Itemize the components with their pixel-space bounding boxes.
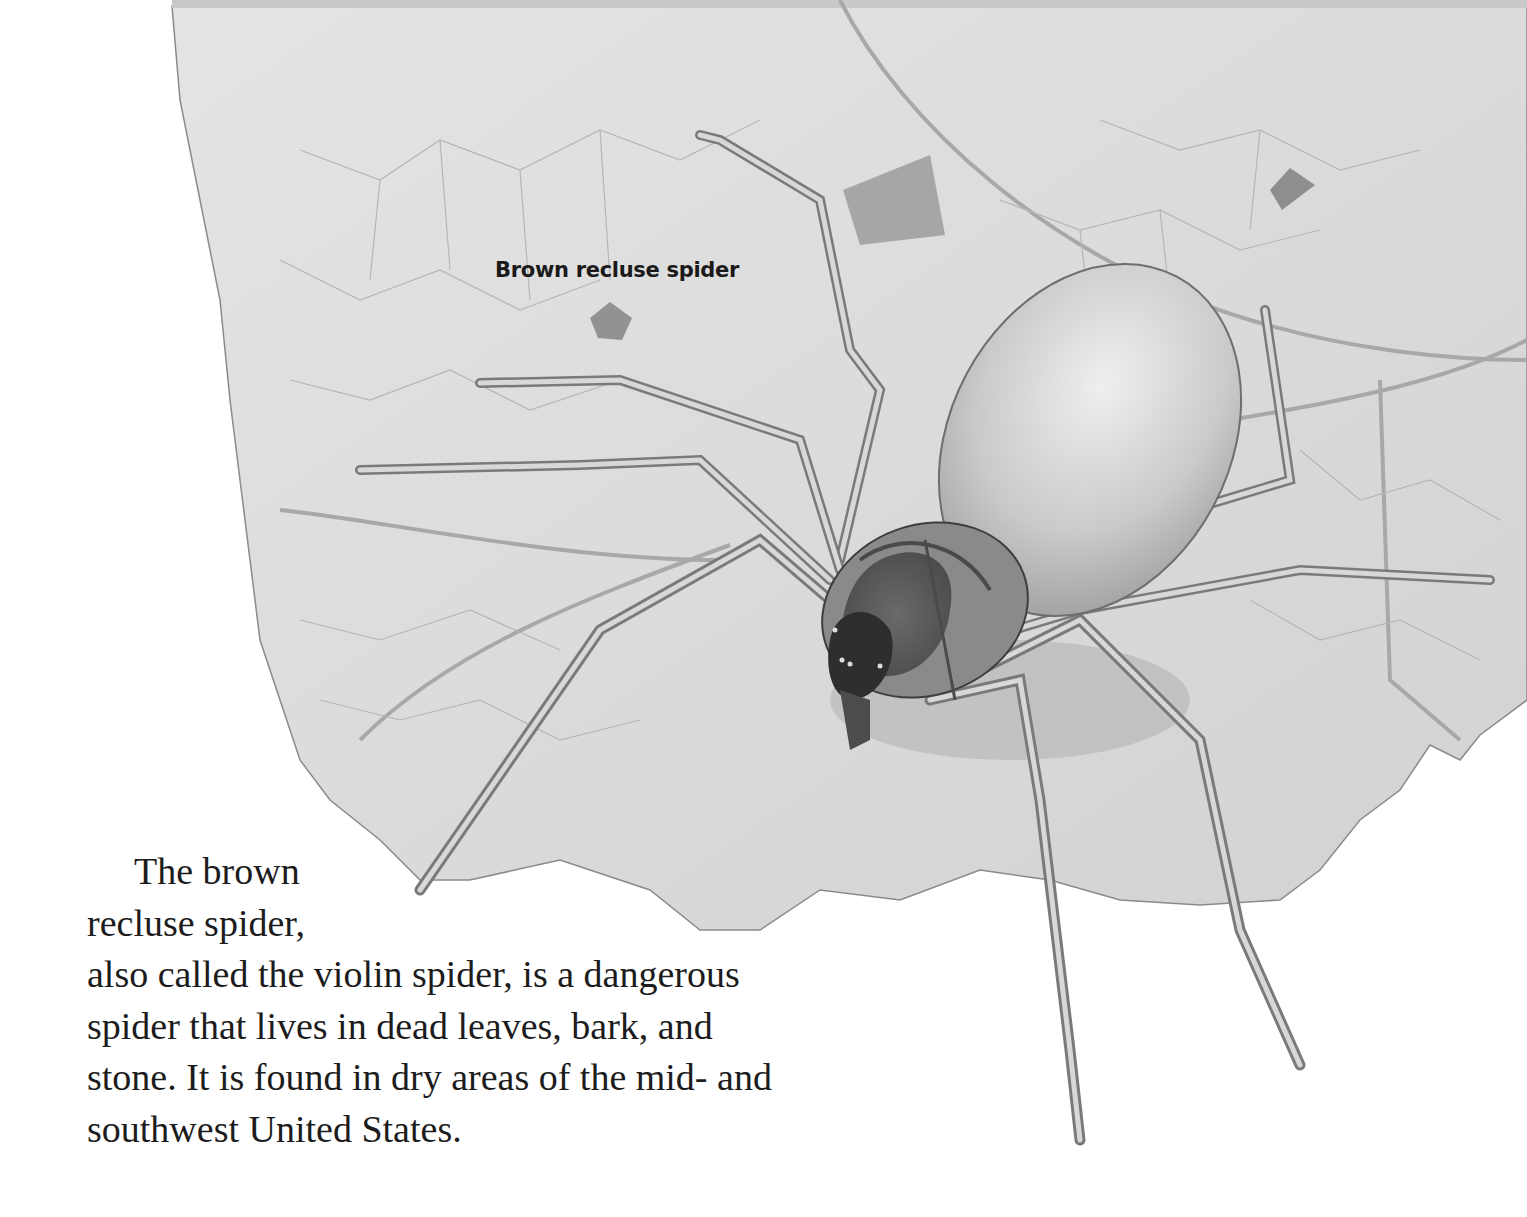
body-line: spider that lives in dead leaves, bark, … <box>87 1001 907 1053</box>
body-line: also called the violin spider, is a dang… <box>87 949 907 1001</box>
body-line: recluse spider, <box>87 898 907 950</box>
body-line: The brown <box>87 846 907 898</box>
illustration-label: Brown recluse spider <box>495 258 739 282</box>
body-line: southwest United States. <box>87 1104 907 1156</box>
book-page: Brown recluse spider The brown recluse s… <box>0 0 1527 1217</box>
body-line: stone. It is found in dry areas of the m… <box>87 1052 907 1104</box>
body-paragraph: The brown recluse spider, also called th… <box>87 846 907 1155</box>
